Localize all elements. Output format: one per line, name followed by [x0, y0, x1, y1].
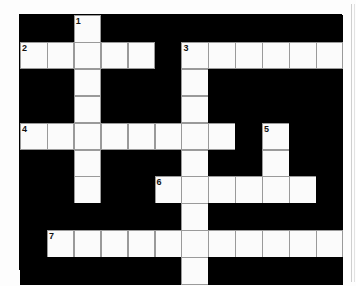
crossword-block-r2-c3	[101, 69, 129, 97]
crossword-block-r2-c8	[235, 69, 263, 97]
crossword-block-r3-c8	[235, 96, 263, 124]
crossword-cell-r8-c5[interactable]	[155, 230, 183, 258]
crossword-block-r3-c1	[47, 96, 75, 124]
crossword-cell-r6-c2[interactable]	[74, 176, 102, 204]
crossword-block-r6-c11	[316, 176, 344, 204]
crossword-block-r0-c0	[20, 15, 48, 43]
crossword-block-r0-c7	[208, 15, 236, 43]
crossword-cell-r6-c6[interactable]	[181, 176, 209, 204]
crossword-block-r2-c7	[208, 69, 236, 97]
crossword-cell-r1-c6[interactable]: 3	[181, 42, 209, 70]
clue-number-6: 6	[157, 177, 162, 187]
crossword-block-r2-c10	[289, 69, 317, 97]
crossword-cell-r8-c9[interactable]	[262, 230, 290, 258]
crossword-cell-r1-c9[interactable]	[262, 42, 290, 70]
crossword-cell-r8-c7[interactable]	[208, 230, 236, 258]
crossword-cell-r1-c8[interactable]	[235, 42, 263, 70]
crossword-cell-r1-c4[interactable]	[128, 42, 156, 70]
clue-number-5: 5	[264, 124, 269, 134]
crossword-block-r7-c10	[289, 203, 317, 231]
crossword-cell-r4-c0[interactable]: 4	[20, 123, 48, 151]
crossword-block-r5-c10	[289, 150, 317, 178]
crossword-block-r9-c1	[47, 257, 75, 285]
crossword-block-r5-c4	[128, 150, 156, 178]
page-background: 1234567	[0, 0, 356, 286]
crossword-cell-r1-c2[interactable]	[74, 42, 102, 70]
crossword-cell-r1-c7[interactable]	[208, 42, 236, 70]
clue-number-2: 2	[22, 43, 27, 53]
crossword-cell-r5-c6[interactable]	[181, 150, 209, 178]
crossword-block-r9-c5	[155, 257, 183, 285]
crossword-cell-r1-c0[interactable]: 2	[20, 42, 48, 70]
crossword-block-r6-c1	[47, 176, 75, 204]
crossword-block-r3-c11	[316, 96, 344, 124]
crossword-block-r0-c10	[289, 15, 317, 43]
crossword-block-r5-c11	[316, 150, 344, 178]
crossword-cell-r9-c6[interactable]	[181, 257, 209, 285]
crossword-block-r0-c6	[181, 15, 209, 43]
crossword-cell-r4-c2[interactable]	[74, 123, 102, 151]
crossword-cell-r6-c8[interactable]	[235, 176, 263, 204]
crossword-cell-r8-c3[interactable]	[101, 230, 129, 258]
crossword-block-r2-c9	[262, 69, 290, 97]
crossword-cell-r5-c2[interactable]	[74, 150, 102, 178]
crossword-cell-r4-c6[interactable]	[181, 123, 209, 151]
crossword-cell-r8-c6[interactable]	[181, 230, 209, 258]
crossword-cell-r4-c5[interactable]	[155, 123, 183, 151]
crossword-cell-r8-c2[interactable]	[74, 230, 102, 258]
crossword-cell-r1-c10[interactable]	[289, 42, 317, 70]
clue-number-7: 7	[49, 231, 54, 241]
crossword-cell-r8-c11[interactable]	[316, 230, 344, 258]
crossword-block-r7-c7	[208, 203, 236, 231]
crossword-cell-r4-c9[interactable]: 5	[262, 123, 290, 151]
crossword-cell-r5-c9[interactable]	[262, 150, 290, 178]
crossword-cell-r6-c9[interactable]	[262, 176, 290, 204]
crossword-cell-r6-c7[interactable]	[208, 176, 236, 204]
crossword-cell-r4-c4[interactable]	[128, 123, 156, 151]
crossword-block-r7-c3	[101, 203, 129, 231]
crossword-block-r2-c0	[20, 69, 48, 97]
clue-number-1: 1	[76, 16, 81, 26]
crossword-block-r4-c10	[289, 123, 317, 151]
crossword-cell-r1-c1[interactable]	[47, 42, 75, 70]
clue-number-4: 4	[22, 124, 27, 134]
clue-number-3: 3	[183, 43, 188, 53]
crossword-cell-r6-c10[interactable]	[289, 176, 317, 204]
crossword-block-r3-c3	[101, 96, 129, 124]
crossword-block-r7-c5	[155, 203, 183, 231]
crossword-block-r3-c10	[289, 96, 317, 124]
crossword-block-r2-c4	[128, 69, 156, 97]
crossword-block-r5-c5	[155, 150, 183, 178]
page-edge-rule-secondary	[354, 4, 355, 282]
crossword-block-r9-c7	[208, 257, 236, 285]
crossword-cell-r2-c6[interactable]	[181, 69, 209, 97]
crossword-grid[interactable]: 1234567	[19, 14, 342, 270]
crossword-cell-r1-c3[interactable]	[101, 42, 129, 70]
crossword-cell-r0-c2[interactable]: 1	[74, 15, 102, 43]
crossword-block-r9-c2	[74, 257, 102, 285]
crossword-block-r3-c4	[128, 96, 156, 124]
crossword-cell-r3-c2[interactable]	[74, 96, 102, 124]
crossword-cell-r1-c11[interactable]	[316, 42, 344, 70]
crossword-cell-r8-c4[interactable]	[128, 230, 156, 258]
crossword-block-r3-c7	[208, 96, 236, 124]
crossword-cell-r8-c10[interactable]	[289, 230, 317, 258]
crossword-cell-r4-c3[interactable]	[101, 123, 129, 151]
crossword-block-r9-c4	[128, 257, 156, 285]
crossword-cell-r8-c8[interactable]	[235, 230, 263, 258]
crossword-block-r5-c7	[208, 150, 236, 178]
crossword-cell-r2-c2[interactable]	[74, 69, 102, 97]
crossword-block-r2-c5	[155, 69, 183, 97]
crossword-block-r0-c8	[235, 15, 263, 43]
crossword-cell-r4-c7[interactable]	[208, 123, 236, 151]
crossword-block-r9-c0	[20, 257, 48, 285]
crossword-block-r4-c11	[316, 123, 344, 151]
crossword-cell-r3-c6[interactable]	[181, 96, 209, 124]
crossword-block-r5-c1	[47, 150, 75, 178]
crossword-cell-r4-c1[interactable]	[47, 123, 75, 151]
crossword-cell-r6-c5[interactable]: 6	[155, 176, 183, 204]
crossword-cell-r8-c1[interactable]: 7	[47, 230, 75, 258]
crossword-block-r6-c4	[128, 176, 156, 204]
crossword-block-r7-c9	[262, 203, 290, 231]
crossword-cell-r7-c6[interactable]	[181, 203, 209, 231]
